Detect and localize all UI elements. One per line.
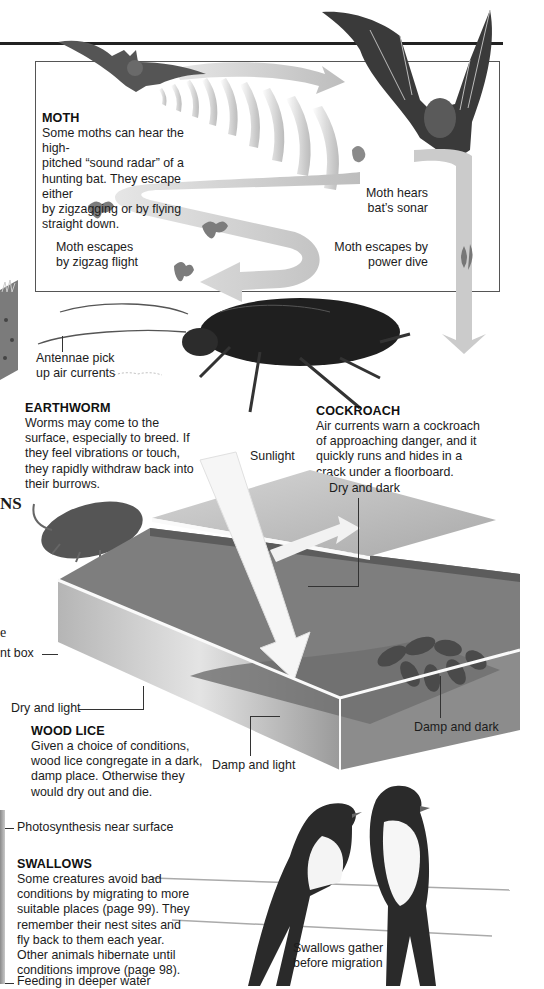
leader-line — [440, 676, 441, 718]
earthworm-body-line: they feel vibrations or touch, — [25, 446, 215, 461]
swallows-body-line: remember their nest sites and — [17, 918, 192, 933]
cockroach-body-line: quickly runs and hides in a — [316, 449, 496, 464]
label-line: by zigzag flight — [56, 255, 138, 270]
label-line: bat’s sonar — [340, 201, 428, 216]
woodlice-heading: WOOD LICE — [31, 724, 105, 739]
big-bat-icon — [322, 10, 492, 160]
label-damp-dark: Damp and dark — [414, 720, 499, 735]
label-swallows-gather: Swallows gather before migration — [293, 941, 383, 971]
label-dry-dark: Dry and dark — [329, 481, 400, 496]
leader-line — [358, 498, 359, 586]
swallows-body-line: suitable places (page 99). They — [17, 902, 192, 917]
label-sunlight: Sunlight — [250, 449, 295, 464]
label-moth-zigzag: Moth escapes by zigzag flight — [56, 240, 138, 270]
swallows-body-line: Other animals hibernate until — [17, 948, 192, 963]
earthworm-body-line: Worms may come to the — [25, 416, 215, 431]
moth-body-line: Some moths can hear the high- — [42, 126, 212, 156]
swallows-body-line: Some creatures avoid bad — [17, 872, 192, 887]
label-moth-dive: Moth escapes by power dive — [330, 240, 428, 270]
small-bat-icon — [58, 41, 206, 92]
cockroach-body-line: Air currents warn a cockroach — [316, 419, 496, 434]
moth-icon — [174, 262, 194, 281]
leader-line — [308, 586, 359, 587]
woodlice-body-line: wood lice congregate in a dark, — [31, 754, 211, 769]
cockroach-body-line: of approaching danger, and it — [316, 434, 496, 449]
label-line: power dive — [330, 255, 428, 270]
moth-body-line: hunting bat. They escape either — [42, 172, 212, 202]
earthworm-heading: EARTHWORM — [25, 401, 111, 416]
moth-body-line: straight down. — [42, 217, 212, 232]
earthworm-body-line: surface, especially to breed. If — [25, 431, 215, 446]
leader-line — [143, 686, 144, 710]
leader-line — [250, 716, 280, 717]
swallows-body-line: conditions by migrating to more — [17, 887, 192, 902]
label-line: Moth escapes by — [330, 240, 428, 255]
label-moth-hears: Moth hears bat’s sonar — [340, 186, 428, 216]
label-damp-light: Damp and light — [212, 758, 295, 773]
label-line: Moth escapes — [56, 240, 138, 255]
label-line: Moth hears — [340, 186, 428, 201]
woodlice-body-line: damp place. Otherwise they — [31, 769, 211, 784]
label-line: before migration — [293, 956, 383, 971]
moth-body-line: by zigzagging or by flying — [42, 202, 212, 217]
antennae-leader — [62, 336, 63, 352]
moth-body: Some moths can hear the high- pitched “s… — [42, 126, 212, 232]
label-line: Swallows gather — [293, 941, 383, 956]
swallows-body: Some creatures avoid bad conditions by m… — [17, 872, 192, 978]
label-line: up air currents — [36, 366, 115, 381]
leader-line — [78, 709, 143, 710]
label-antennae: Antennae pick up air currents — [36, 351, 115, 381]
moth-hearing-icon — [352, 146, 365, 162]
swallows-body-line: fly back to them each year. — [17, 933, 192, 948]
leader-line — [250, 716, 251, 756]
woodlice-body-line: Given a choice of conditions, — [31, 739, 211, 754]
cockroach-heading: COCKROACH — [316, 404, 400, 419]
label-line: Antennae pick — [36, 351, 115, 366]
moth-body-line: pitched “sound radar” of a — [42, 156, 212, 171]
swallows-heading: SWALLOWS — [17, 857, 92, 872]
swallows-body-line: conditions improve (page 98). — [17, 963, 192, 978]
label-dry-light: Dry and light — [11, 701, 81, 716]
moth-heading: MOTH — [42, 111, 79, 126]
